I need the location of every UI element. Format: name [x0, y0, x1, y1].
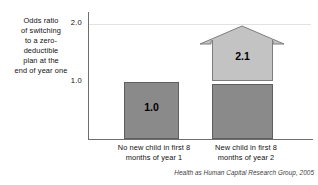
y-axis-label-line-4: deductible [6, 46, 76, 56]
bar-new-child [212, 84, 273, 139]
x-axis-line [88, 139, 313, 140]
source-citation: Health as Human Capital Research Group, … [174, 169, 314, 176]
bar-no-new-child: 1.0 [124, 82, 179, 139]
up-arrow-annotation: 2.1 [199, 25, 285, 81]
y-axis-label-line-5: plan at the [6, 56, 76, 66]
plot-area: 1.0 2.1 [89, 12, 313, 139]
x-category-label-2-line-2: months of year 2 [190, 153, 302, 163]
y-tick-label-1-0: 1.0 [62, 76, 82, 85]
y-axis-label-line-6: end of year one [6, 66, 76, 76]
bar-value-label-2: 2.1 [212, 50, 273, 62]
bar-value-label-1: 1.0 [125, 101, 178, 113]
x-category-label-2-line-1: New child in first 8 [190, 143, 302, 153]
x-category-label-2: New child in first 8 months of year 2 [190, 143, 302, 163]
y-tick-label-2-0: 2.0 [62, 18, 82, 27]
y-axis-label-line-2: of switching [6, 26, 76, 36]
y-axis-label-line-3: to a zero- [6, 36, 76, 46]
odds-ratio-bar-chart: Odds ratio of switching to a zero- deduc… [0, 0, 318, 185]
